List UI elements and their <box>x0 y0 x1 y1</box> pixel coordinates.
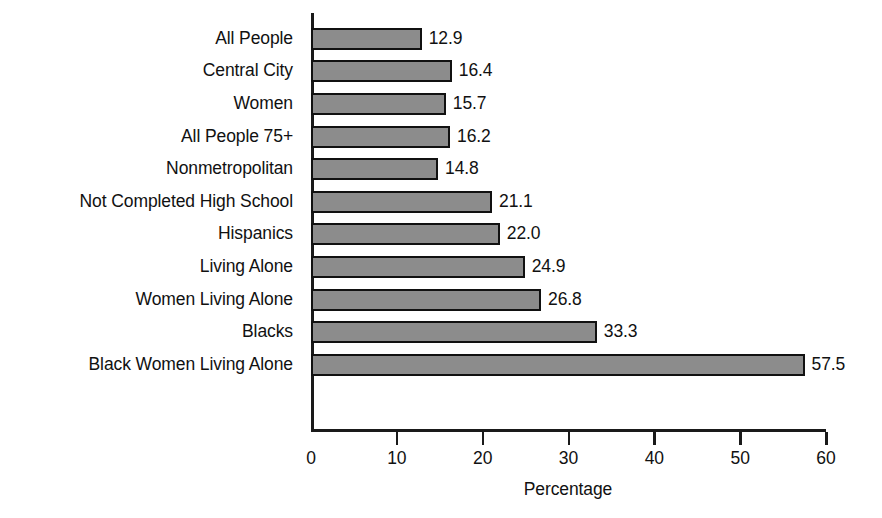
category-label: Black Women Living Alone <box>89 356 293 374</box>
x-tick-label: 60 <box>816 450 835 468</box>
x-tick-label: 0 <box>306 450 316 468</box>
bar-row: Women15.7 <box>0 88 882 121</box>
x-axis-title: Percentage <box>524 481 613 499</box>
category-label: All People 75+ <box>181 128 293 146</box>
bar-row: Hispanics22.0 <box>0 218 882 251</box>
x-tick-mark <box>482 432 485 445</box>
bar <box>311 191 492 213</box>
bar-value-label: 57.5 <box>812 356 846 374</box>
bar-row: Women Living Alone26.8 <box>0 283 882 316</box>
bar-value-label: 22.0 <box>507 226 541 244</box>
bar-row: Black Women Living Alone57.5 <box>0 349 882 382</box>
bar-value-label: 33.3 <box>604 323 638 341</box>
bar-value-label: 15.7 <box>453 95 487 113</box>
bar-chart: All People12.9Central City16.4Women15.7A… <box>0 0 882 518</box>
bar-value-label: 21.1 <box>499 193 533 211</box>
bar <box>311 321 597 343</box>
bar <box>311 60 452 82</box>
bar <box>311 256 525 278</box>
bar-value-label: 14.8 <box>445 160 479 178</box>
x-tick-mark <box>653 432 656 445</box>
x-tick-label: 50 <box>731 450 750 468</box>
x-tick-mark <box>396 432 399 445</box>
bar <box>311 93 446 115</box>
category-label: Not Completed High School <box>80 193 293 211</box>
bar-row: Nonmetropolitan14.8 <box>0 153 882 186</box>
category-label: All People <box>215 30 293 48</box>
bar-row: Central City16.4 <box>0 55 882 88</box>
x-tick-label: 20 <box>473 450 492 468</box>
bar <box>311 28 422 50</box>
bar-value-label: 16.2 <box>457 128 491 146</box>
bar <box>311 354 805 376</box>
bar-row: All People12.9 <box>0 23 882 56</box>
bar-row: Blacks33.3 <box>0 316 882 349</box>
x-tick-mark <box>825 432 828 445</box>
bar <box>311 126 450 148</box>
category-label: Blacks <box>242 323 293 341</box>
bar-value-label: 12.9 <box>429 30 463 48</box>
category-label: Hispanics <box>218 226 293 244</box>
bar-value-label: 24.9 <box>532 258 566 276</box>
x-tick-label: 40 <box>645 450 664 468</box>
category-label: Women Living Alone <box>136 291 293 309</box>
category-label: Central City <box>203 63 293 81</box>
x-tick-label: 30 <box>559 450 578 468</box>
x-tick-mark <box>568 432 571 445</box>
category-label: Living Alone <box>200 258 293 276</box>
x-tick-label: 10 <box>387 450 406 468</box>
bar <box>311 289 541 311</box>
category-label: Nonmetropolitan <box>166 160 293 178</box>
bar <box>311 158 438 180</box>
category-label: Women <box>234 95 293 113</box>
bar-value-label: 16.4 <box>459 63 493 81</box>
bar-row: Living Alone24.9 <box>0 251 882 284</box>
x-tick-mark <box>739 432 742 445</box>
plot-area: All People12.9Central City16.4Women15.7A… <box>0 0 882 518</box>
bar-row: All People 75+16.2 <box>0 120 882 153</box>
bar-value-label: 26.8 <box>548 291 582 309</box>
bar <box>311 223 500 245</box>
bar-row: Not Completed High School21.1 <box>0 186 882 219</box>
